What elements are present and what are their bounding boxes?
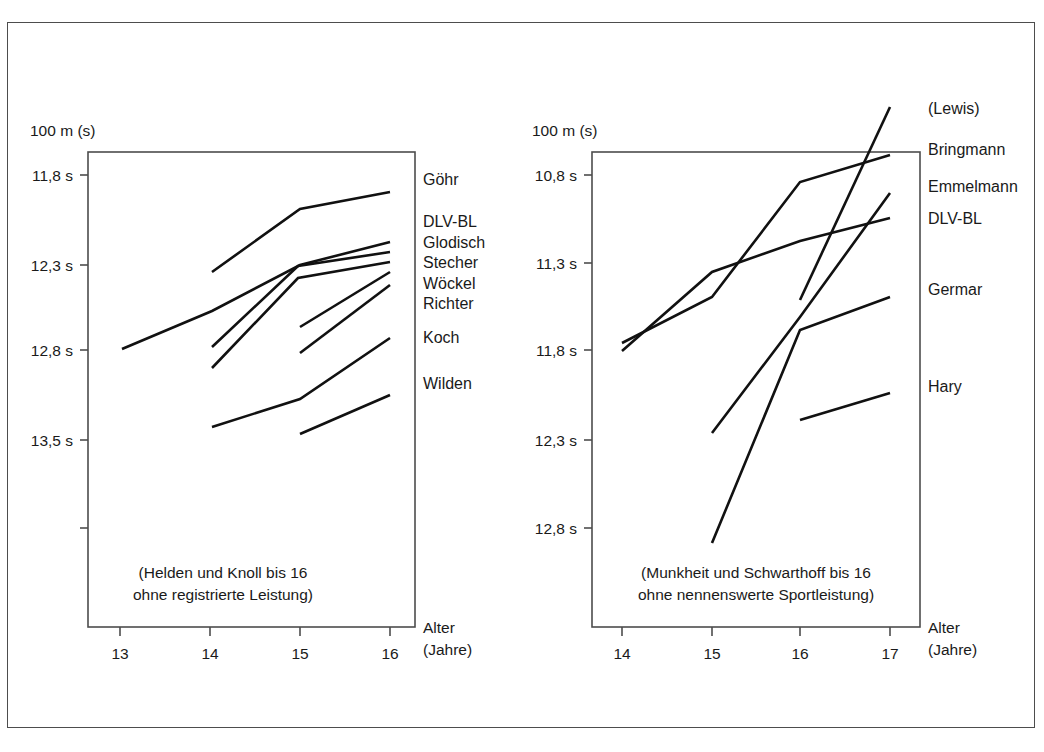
right-series-label-emmelmann: Emmelmann xyxy=(928,178,1018,195)
left-chart: 100 m (s) 11,8 s 12,3 s 12,8 s 13,5 s 13… xyxy=(30,122,485,662)
right-note-line-2: ohne nennenswerte Sportleistung) xyxy=(638,586,874,603)
left-xtick-label-4: 16 xyxy=(381,645,398,662)
right-ytick-label-2: 11,3 s xyxy=(536,255,577,272)
right-series-line-lewis xyxy=(800,107,890,300)
right-ytick-label-5: 12,8 s xyxy=(535,520,577,537)
right-series-line-emmelmann xyxy=(712,193,890,433)
right-xtick-label-3: 16 xyxy=(791,645,808,662)
left-note-line-1: (Helden und Knoll bis 16 xyxy=(139,564,308,581)
left-series-line-wilden xyxy=(300,395,390,434)
right-x-axis-unit: (Jahre) xyxy=(928,641,977,658)
left-x-axis-unit: (Jahre) xyxy=(423,641,472,658)
left-series-label-woeckel: Wöckel xyxy=(423,275,475,292)
right-series-label-lewis: (Lewis) xyxy=(928,100,980,117)
right-series-label-bringmann: Bringmann xyxy=(928,141,1005,158)
right-ytick-label-4: 12,3 s xyxy=(535,432,577,449)
left-y-axis-title: 100 m (s) xyxy=(30,122,95,139)
right-y-axis-title: 100 m (s) xyxy=(532,122,597,139)
right-xtick-label-4: 17 xyxy=(881,645,898,662)
left-series-label-wilden: Wilden xyxy=(423,375,472,392)
left-series-line-goehr xyxy=(212,192,390,272)
charts-svg: 100 m (s) 11,8 s 12,3 s 12,8 s 13,5 s 13… xyxy=(0,0,1044,752)
left-note-line-2: ohne registrierte Leistung) xyxy=(133,586,313,603)
left-series-label-glodisch: Glodisch xyxy=(423,234,485,251)
left-ytick-label-2: 12,3 s xyxy=(31,257,73,274)
right-ytick-label-1: 10,8 s xyxy=(535,167,577,184)
left-series-label-dlv-bl: DLV-BL xyxy=(423,213,477,230)
right-series-label-hary: Hary xyxy=(928,378,962,395)
right-chart: 100 m (s) 10,8 s 11,3 s 11,8 s 12,3 s 12… xyxy=(532,100,1018,662)
left-ytick-label-3: 12,8 s xyxy=(31,342,73,359)
right-series-label-germar: Germar xyxy=(928,281,983,298)
left-series-label-richter: Richter xyxy=(423,295,474,312)
left-series-label-koch: Koch xyxy=(423,329,459,346)
left-plot-frame xyxy=(88,152,415,627)
right-ytick-label-3: 11,8 s xyxy=(536,342,577,359)
right-xtick-label-2: 15 xyxy=(703,645,720,662)
left-xtick-label-2: 14 xyxy=(201,645,219,662)
right-note-line-1: (Munkheit und Schwarthoff bis 16 xyxy=(641,564,871,581)
left-series-label-goehr: Göhr xyxy=(423,171,459,188)
right-x-axis-title: Alter xyxy=(928,619,960,636)
left-ytick-label-1: 11,8 s xyxy=(32,167,73,184)
left-xtick-label-1: 13 xyxy=(111,645,128,662)
right-series-label-dlv-bl: DLV-BL xyxy=(928,210,982,227)
right-xtick-label-1: 14 xyxy=(613,645,631,662)
left-series-label-stecher: Stecher xyxy=(423,254,479,271)
right-series-line-hary xyxy=(800,393,890,420)
left-x-axis-title: Alter xyxy=(423,619,455,636)
left-ytick-label-4: 13,5 s xyxy=(31,432,73,449)
figure-page: 100 m (s) 11,8 s 12,3 s 12,8 s 13,5 s 13… xyxy=(0,0,1044,752)
left-xtick-label-3: 15 xyxy=(291,645,308,662)
